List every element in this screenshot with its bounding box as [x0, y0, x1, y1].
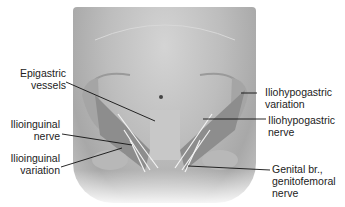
label-line: variation [0, 164, 60, 176]
label-line: nerve [272, 187, 336, 199]
label-iliohypogastric-nerve: Iliohypogastric nerve [268, 114, 335, 138]
label-ilioinguinal-variation: Ilioinguinal variation [0, 152, 60, 176]
label-line: Iliohypogastric [265, 86, 332, 98]
label-line: Epigastric [10, 67, 66, 79]
label-line: Ilioinguinal [0, 152, 60, 164]
label-ilioinguinal-nerve: Ilioinguinal nerve [0, 118, 60, 142]
label-iliohypogastric-variation: Iliohypogastric variation [265, 86, 332, 110]
label-line: Genital br., [272, 163, 336, 175]
label-line: nerve [268, 126, 335, 138]
umbilicus [159, 95, 163, 99]
label-epigastric-vessels: Epigastric vessels [10, 67, 66, 91]
label-line: variation [265, 98, 332, 110]
label-line: Iliohypogastric [268, 114, 335, 126]
label-line: Ilioinguinal [0, 118, 60, 130]
torso-fade [73, 170, 256, 207]
label-genital-branch: Genital br., genitofemoral nerve [272, 163, 336, 199]
label-line: vessels [10, 79, 66, 91]
label-line: genitofemoral [272, 175, 336, 187]
label-line: nerve [0, 130, 60, 142]
